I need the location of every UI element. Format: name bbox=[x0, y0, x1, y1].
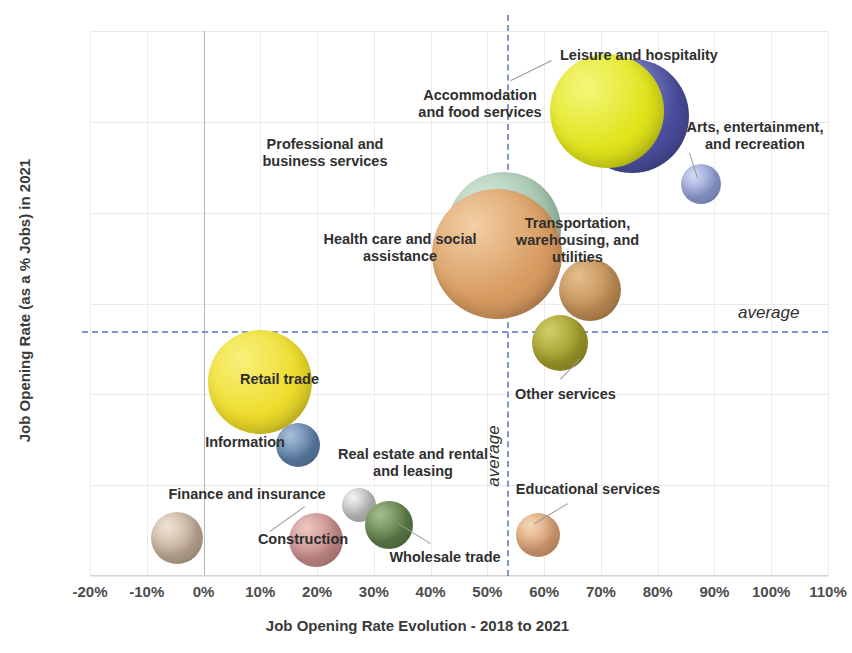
bubble-label-other-services: Other services bbox=[515, 386, 665, 403]
bubble-label-leisure-and-hospitality: Leisure and hospitality bbox=[560, 47, 760, 64]
bubble-finance-and-insurance[interactable] bbox=[151, 512, 203, 564]
bubble-label-arts-entertainment-and-recreation: Arts, entertainment, and recreation bbox=[655, 119, 852, 153]
bubble-label-transportation-warehousing-and-utilities: Transportation, warehousing, and utiliti… bbox=[490, 215, 665, 266]
average-label-vertical: average bbox=[484, 425, 504, 486]
gridline-vertical bbox=[374, 31, 375, 576]
bubble-label-health-care-and-social-assistance: Health care and social assistance bbox=[300, 231, 500, 265]
gridline-vertical bbox=[147, 31, 148, 576]
plot-area: 4%5%6%7%8%9%10%-20%-10%0%10%20%30%40%50%… bbox=[90, 31, 828, 576]
gridline-horizontal bbox=[90, 576, 828, 577]
x-axis-title: Job Opening Rate Evolution - 2018 to 202… bbox=[0, 617, 835, 634]
bubble-label-finance-and-insurance: Finance and insurance bbox=[152, 486, 342, 503]
average-line-horizontal bbox=[82, 331, 828, 333]
bubble-arts-entertainment-and-recreation[interactable] bbox=[681, 164, 721, 204]
bubble-other-services[interactable] bbox=[532, 315, 588, 371]
x-axis-tick-label: 110% bbox=[788, 583, 852, 600]
bubble-label-accommodation-and-food-services: Accommodation and food services bbox=[385, 87, 575, 121]
bubble-wholesale-trade[interactable] bbox=[365, 501, 413, 549]
bubble-label-real-estate-and-rental-and-leasing: Real estate and rental and leasing bbox=[318, 446, 508, 480]
bubble-transportation-warehousing-and-utilities[interactable] bbox=[559, 259, 621, 321]
bubble-label-educational-services: Educational services bbox=[498, 481, 678, 498]
bubble-label-information: Information bbox=[180, 434, 310, 451]
gridline-horizontal bbox=[90, 31, 828, 32]
gridline-horizontal bbox=[90, 394, 828, 395]
x-axis-line bbox=[90, 575, 828, 576]
gridline-vertical bbox=[90, 31, 91, 576]
bubble-label-retail-trade: Retail trade bbox=[212, 371, 347, 388]
gridline-vertical bbox=[714, 31, 715, 576]
average-label-horizontal: average bbox=[738, 303, 799, 323]
leader-leisure-and-hospitality bbox=[511, 60, 552, 81]
bubble-label-professional-and-business-services: Professional and business services bbox=[230, 136, 420, 170]
bubble-label-wholesale-trade: Wholesale trade bbox=[365, 549, 525, 566]
y-axis-title: Job Opening Rate (as a % Jobs) in 2021 bbox=[16, 91, 33, 511]
bubble-label-construction: Construction bbox=[238, 531, 368, 548]
gridline-vertical bbox=[828, 31, 829, 576]
